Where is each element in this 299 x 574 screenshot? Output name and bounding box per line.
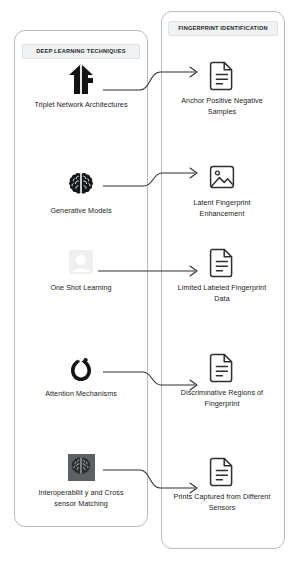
node-prints-captured-from-different-sensors[interactable]: Prints Captured from Different Sensors (172, 452, 272, 513)
pytorch-flame-icon (31, 349, 131, 387)
image-icon (172, 158, 272, 196)
node-generative-models[interactable]: Generative Models (31, 166, 131, 217)
node-label: Latent Fingerprint Enhancement (172, 198, 272, 219)
node-latent-fingerprint-enhancement[interactable]: Latent Fingerprint Enhancement (172, 158, 272, 219)
node-label: Limited Labeled Fingerprint Data (172, 283, 272, 304)
one-shot-icon (31, 243, 131, 281)
node-label: Discriminative Regions of Fingerprint (172, 388, 272, 409)
node-limited-labeled-fingerprint-data[interactable]: Limited Labeled Fingerprint Data (172, 243, 272, 304)
node-label: Generative Models (31, 206, 131, 217)
node-label: One Shot Learning (31, 283, 131, 294)
document-icon (172, 348, 272, 386)
node-label: Interoperabilit y and Cross sensor Match… (31, 488, 131, 509)
node-attention-mechanisms[interactable]: Attention Mechanisms (31, 349, 131, 400)
document-icon (172, 243, 272, 281)
node-one-shot-learning[interactable]: One Shot Learning (31, 243, 131, 294)
node-label: Triplet Network Architectures (31, 100, 131, 111)
triplet-network-icon (31, 60, 131, 98)
node-label: Anchor Positive Negative Samples (172, 96, 272, 117)
diagram-canvas: DEEP LEARNING TECHNIQUES FINGERPRINT IDE… (0, 0, 299, 574)
node-label: Attention Mechanisms (31, 389, 131, 400)
node-anchor-positive-negative-samples[interactable]: Anchor Positive Negative Samples (172, 56, 272, 117)
node-label: Prints Captured from Different Sensors (172, 492, 272, 513)
document-icon (172, 56, 272, 94)
node-discriminative-regions-of-fingerprint[interactable]: Discriminative Regions of Fingerprint (172, 348, 272, 409)
icon-tile-background (68, 454, 95, 481)
document-icon (172, 452, 272, 490)
node-interoperability-cross-sensor-matching[interactable]: Interoperabilit y and Cross sensor Match… (31, 448, 131, 509)
node-triplet-network-architectures[interactable]: Triplet Network Architectures (31, 60, 131, 111)
brain-icon (31, 166, 131, 204)
group-title-fingerprint-identification: FINGERPRINT IDENTIFICATION (168, 21, 278, 36)
group-title-deep-learning-techniques: DEEP LEARNING TECHNIQUES (22, 44, 140, 59)
brain-tile-icon (31, 448, 131, 486)
